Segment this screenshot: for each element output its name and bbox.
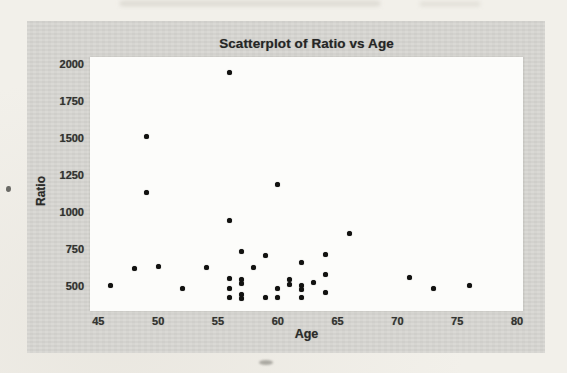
scan-artifact bbox=[6, 186, 11, 192]
data-point bbox=[227, 276, 232, 281]
data-point bbox=[144, 190, 149, 195]
y-tick-label: 500 bbox=[40, 280, 84, 292]
data-point bbox=[275, 295, 280, 300]
data-point bbox=[287, 282, 292, 287]
data-point bbox=[239, 281, 244, 286]
scan-artifact bbox=[420, 2, 480, 6]
scan-artifact bbox=[120, 1, 380, 6]
x-tick-label: 70 bbox=[382, 315, 412, 327]
scatterplot-figure: Scatterplot of Ratio vs Age Ratio 200017… bbox=[27, 21, 545, 353]
data-point bbox=[263, 253, 268, 258]
data-point bbox=[275, 286, 280, 291]
data-point bbox=[275, 182, 280, 187]
data-point bbox=[323, 290, 328, 295]
data-point bbox=[108, 283, 113, 288]
y-tick-label: 2000 bbox=[40, 58, 84, 70]
plot-area bbox=[90, 57, 523, 311]
y-tick-label: 750 bbox=[40, 243, 84, 255]
chart-title: Scatterplot of Ratio vs Age bbox=[90, 36, 523, 51]
data-point bbox=[227, 286, 232, 291]
data-point bbox=[299, 295, 304, 300]
y-tick-label: 1250 bbox=[40, 169, 84, 181]
y-tick-label: 1000 bbox=[40, 206, 84, 218]
data-point bbox=[180, 286, 185, 291]
x-axis-label: Age bbox=[90, 327, 523, 341]
data-point bbox=[299, 260, 304, 265]
data-point bbox=[132, 266, 137, 271]
data-point bbox=[311, 280, 316, 285]
data-point bbox=[431, 286, 436, 291]
scan-artifact bbox=[259, 360, 273, 365]
data-point bbox=[227, 70, 232, 75]
data-point bbox=[227, 218, 232, 223]
data-point bbox=[156, 264, 161, 269]
x-tick-label: 55 bbox=[203, 315, 233, 327]
data-point bbox=[239, 249, 244, 254]
y-tick-label: 1750 bbox=[40, 95, 84, 107]
data-point bbox=[347, 231, 352, 236]
data-point bbox=[263, 295, 268, 300]
data-point bbox=[204, 265, 209, 270]
x-tick-label: 80 bbox=[502, 315, 532, 327]
x-tick-label: 75 bbox=[442, 315, 472, 327]
x-tick-label: 45 bbox=[83, 315, 113, 327]
data-point bbox=[251, 265, 256, 270]
data-point bbox=[467, 283, 472, 288]
x-tick-label: 50 bbox=[143, 315, 173, 327]
data-point bbox=[227, 295, 232, 300]
x-tick-label: 65 bbox=[323, 315, 353, 327]
x-tick-label: 60 bbox=[263, 315, 293, 327]
document-page: Scatterplot of Ratio vs Age Ratio 200017… bbox=[0, 0, 567, 373]
y-tick-label: 1500 bbox=[40, 132, 84, 144]
data-point bbox=[239, 296, 244, 301]
data-point bbox=[144, 134, 149, 139]
data-point bbox=[323, 272, 328, 277]
data-point bbox=[323, 252, 328, 257]
data-point bbox=[407, 275, 412, 280]
data-point bbox=[299, 287, 304, 292]
